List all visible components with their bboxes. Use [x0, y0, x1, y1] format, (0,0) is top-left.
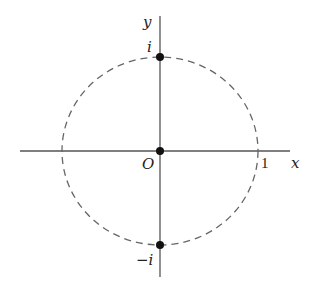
complex-plane-diagram: y x O 1 i −i [0, 0, 310, 283]
point-i-label: i [147, 38, 152, 56]
point-i [156, 53, 164, 61]
point-minus-i-label: −i [136, 251, 154, 269]
tick-label-one: 1 [261, 155, 269, 171]
x-axis-label: x [291, 154, 300, 172]
point-minus-i [156, 241, 164, 249]
origin-label: O [142, 155, 154, 173]
point-origin [156, 147, 164, 155]
y-axis-label: y [142, 13, 152, 31]
